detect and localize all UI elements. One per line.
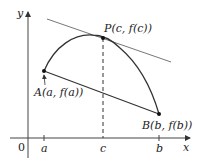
function-curve [44, 35, 159, 114]
pointer-arrow-A [44, 75, 45, 85]
tick-label-a: a [41, 142, 48, 155]
tick-label-c: c [100, 142, 106, 155]
point-P [101, 36, 105, 40]
label-P: P(c, f(c)) [103, 22, 152, 35]
x-axis-label: x [183, 141, 190, 154]
mvt-diagram: y x 0 a c b A(a, f(a)) P(c, f(c)) B(b, f… [0, 0, 198, 168]
label-A: A(a, f(a)) [33, 86, 83, 99]
y-axis-label: y [16, 7, 24, 20]
point-B [157, 112, 161, 116]
point-A [42, 69, 46, 73]
label-B: B(b, f(b)) [141, 119, 192, 132]
tick-label-b: b [156, 142, 163, 155]
origin-label: 0 [18, 141, 25, 154]
